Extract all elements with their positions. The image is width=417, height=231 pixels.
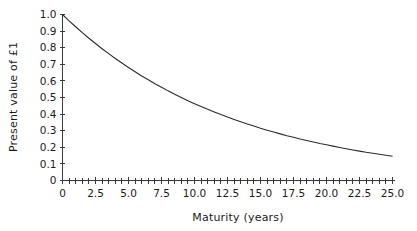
x-axis-tick-label: 12.5 — [216, 187, 239, 199]
x-axis-tick-label: 5.0 — [120, 187, 137, 199]
y-axis-tick-label: 0 — [50, 174, 57, 186]
x-axis-tick-label: 15.0 — [249, 187, 272, 199]
y-axis-tick-label: 0.5 — [40, 91, 57, 103]
chart-container: 00.10.20.30.40.50.60.70.80.91.0 02.55.07… — [0, 0, 417, 231]
y-axis-title: Present value of £1 — [7, 42, 20, 152]
x-axis-title: Maturity (years) — [192, 211, 283, 224]
x-axis-tick-label: 22.5 — [348, 187, 371, 199]
x-axis-tick-label: 20.0 — [315, 187, 338, 199]
x-axis-tick-label: 10.0 — [183, 187, 206, 199]
x-axis-tick-label: 0 — [59, 187, 66, 199]
y-axis-tick-label: 1.0 — [40, 8, 57, 20]
y-axis-tick-label: 0.2 — [40, 141, 57, 153]
y-axis-tick-label: 0.8 — [40, 41, 57, 53]
y-axis-tick-label: 0.9 — [40, 25, 57, 37]
x-axis-tick-label: 2.5 — [87, 187, 104, 199]
y-axis-tick-label: 0.7 — [40, 58, 57, 70]
y-axis-tick-label: 0.1 — [40, 158, 57, 170]
x-axis-tick-label: 25.0 — [381, 187, 404, 199]
x-axis-tick-label: 17.5 — [282, 187, 305, 199]
y-axis-tick-label: 0.3 — [40, 124, 57, 136]
y-axis-tick-label: 0.6 — [40, 75, 57, 87]
x-axis-tick-label: 7.5 — [153, 187, 170, 199]
discount-curve-chart: 00.10.20.30.40.50.60.70.80.91.0 02.55.07… — [0, 0, 417, 231]
y-axis-tick-label: 0.4 — [40, 108, 57, 120]
